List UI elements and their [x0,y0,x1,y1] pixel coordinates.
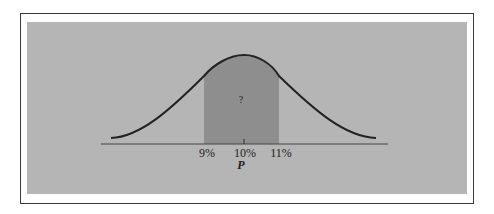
tick-label-11: 11% [270,146,292,161]
unknown-area-label: ? [239,94,243,105]
normal-curve-chart [0,0,494,214]
x-axis-title: P [237,158,244,173]
tick-label-9: 9% [199,146,215,161]
